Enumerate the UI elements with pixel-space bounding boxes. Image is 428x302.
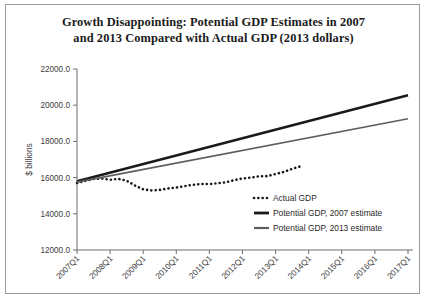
x-tick-label: 2007Q1 — [54, 254, 81, 281]
y-tick-label: 12000.0 — [40, 246, 70, 255]
series-3 — [77, 119, 408, 182]
x-tick-label: 2009Q1 — [121, 254, 148, 281]
y-tick-label: 16000.0 — [40, 174, 70, 183]
legend-label-1: Actual GDP — [273, 193, 317, 203]
x-tick-label: 2015Q1 — [319, 254, 346, 281]
series-2 — [77, 95, 408, 181]
x-tick-label: 2010Q1 — [154, 254, 181, 281]
plot-area: 12000.014000.016000.018000.020000.022000… — [6, 5, 421, 295]
x-tick-label: 2008Q1 — [88, 254, 115, 281]
y-tick-label: 18000.0 — [40, 137, 70, 146]
legend-label-3: Potential GDP, 2013 estimate — [273, 223, 383, 233]
series-1 — [77, 166, 300, 190]
legend-label-2: Potential GDP, 2007 estimate — [273, 208, 383, 218]
x-tick-label: 2012Q1 — [220, 254, 247, 281]
figure-frame: Growth Disappointing: Potential GDP Esti… — [5, 4, 420, 294]
x-tick-label: 2013Q1 — [253, 254, 280, 281]
x-tick-label: 2011Q1 — [187, 254, 214, 281]
y-axis-title: $ billions — [24, 143, 34, 176]
y-tick-label: 14000.0 — [40, 210, 70, 219]
chart-canvas: 12000.014000.016000.018000.020000.022000… — [6, 5, 421, 295]
y-tick-label: 22000.0 — [40, 65, 70, 74]
x-tick-label: 2017Q1 — [385, 254, 412, 281]
y-tick-label: 20000.0 — [40, 101, 70, 110]
x-tick-label: 2014Q1 — [286, 254, 313, 281]
x-tick-label: 2016Q1 — [352, 254, 379, 281]
